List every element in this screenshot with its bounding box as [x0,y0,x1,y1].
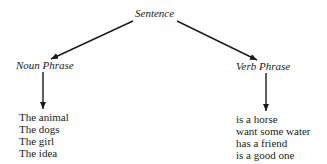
noun-phrase-examples: The animal The dogs The girl The idea [19,111,69,159]
arrow-sentence-to-noun-phrase [51,21,133,59]
verb-example: is a good one [236,149,311,161]
node-noun-phrase: Noun Phrase [16,59,74,71]
verb-example: has a friend [236,137,311,149]
root-node-sentence: Sentence [135,7,174,19]
arrow-sentence-to-verb-phrase [177,21,257,60]
noun-example: The animal [19,111,69,123]
verb-example: want some water [236,125,311,137]
verb-phrase-examples: is a horse want some water has a friend … [236,113,311,161]
noun-example: The idea [19,147,69,159]
verb-example: is a horse [236,113,311,125]
noun-example: The dogs [19,123,69,135]
noun-example: The girl [19,135,69,147]
node-verb-phrase: Verb Phrase [236,60,290,72]
sentence-structure-diagram: Sentence Noun Phrase Verb Phrase The ani… [0,0,327,164]
